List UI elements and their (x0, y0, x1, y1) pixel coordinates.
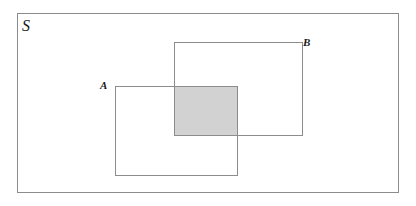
universal-set-label: S (22, 18, 30, 34)
intersection-shaded-region (174, 86, 238, 136)
set-a-label: A (100, 80, 107, 91)
venn-diagram: S A B (0, 0, 416, 206)
set-b-label: B (303, 37, 310, 48)
